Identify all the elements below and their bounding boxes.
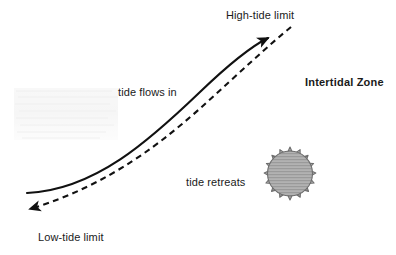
label-high-tide-limit: High-tide limit: [226, 9, 294, 21]
scan-artifact-streaks: [14, 88, 118, 140]
label-intertidal-zone: Intertidal Zone: [305, 76, 384, 88]
sunburst-icon: [264, 147, 316, 200]
label-tide-flows-in: tide flows in: [118, 86, 177, 98]
label-low-tide-limit: Low-tide limit: [38, 231, 104, 243]
intertidal-zone-diagram: High-tide limit tide flows in Intertidal…: [0, 0, 396, 255]
label-tide-retreats: tide retreats: [186, 176, 245, 188]
diagram-canvas: [0, 0, 396, 255]
